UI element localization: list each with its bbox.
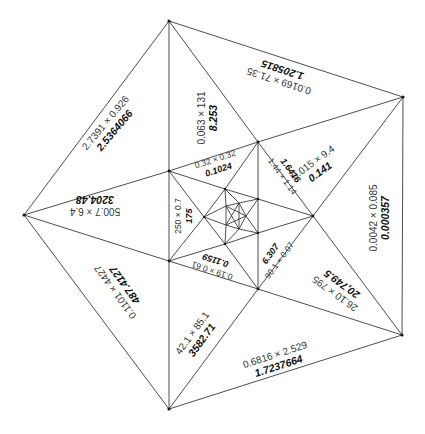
- cell-2: 0.063 × 131 8.253: [196, 91, 219, 145]
- cell-expression: 250 × 0.7: [173, 198, 183, 234]
- cell-1: 2.7391 × 0.926 2.5364066: [80, 93, 141, 159]
- cell-8: 42.1 × 85.1 3582.71: [173, 309, 221, 364]
- cell-3: 0.0169 × 71.35 1.205815: [245, 54, 316, 97]
- cell-4: 0.015 × 9.4 0.141: [289, 143, 344, 191]
- cell-expression: 0.0042 × 0.085: [368, 184, 379, 251]
- cell-6: 26.10 × 795 20,749.5: [310, 264, 367, 314]
- cell-product: 3204.48: [76, 194, 114, 206]
- cell-10: 500.7 × 6.4 3204.48: [69, 194, 120, 217]
- cell-product: 0.000357: [379, 195, 391, 240]
- cell-product: 8.253: [207, 105, 219, 131]
- cell-product: 175: [184, 208, 194, 224]
- cell-expression: 500.7 × 6.4: [69, 206, 120, 217]
- cell-9: 0.1101 × 4427 487.4127: [92, 256, 148, 321]
- cell-12: 0.32 × 0.32 0.1024: [193, 148, 240, 181]
- cell-11: 250 × 0.7 175: [173, 198, 194, 234]
- cell-15: 0.19 × 0.61 0.1159: [190, 249, 237, 282]
- cell-14: 6.307 90.1 × 0.07: [254, 233, 296, 280]
- cell-7: 0.6816 × 2.529 1.7237664: [241, 339, 312, 382]
- pentagon-multiplication-diagram: 2.7391 × 0.926 2.5364066 0.063 × 131 8.2…: [0, 0, 425, 434]
- diagram-canvas: 2.7391 × 0.926 2.5364066 0.063 × 131 8.2…: [0, 0, 425, 434]
- cell-expression: 0.063 × 131: [196, 91, 207, 145]
- cell-5: 0.0042 × 0.085 0.000357: [368, 184, 391, 251]
